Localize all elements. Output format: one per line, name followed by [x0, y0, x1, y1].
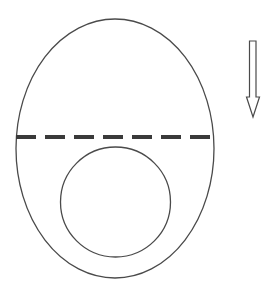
diagram-canvas [0, 0, 272, 302]
